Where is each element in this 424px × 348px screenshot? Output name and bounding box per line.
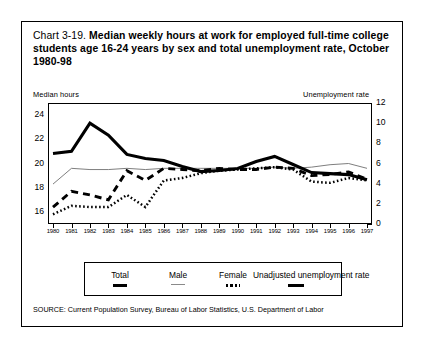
right-axis-title: Unemployment rate: [303, 90, 369, 99]
y-tick-label-left: 16: [22, 206, 44, 216]
x-tick-mark: [72, 224, 73, 228]
plot-area: [48, 103, 372, 224]
legend-item-total: Total: [93, 270, 147, 287]
legend-item-male: Male: [153, 270, 203, 285]
x-tick-label: 1997: [356, 228, 378, 234]
y-tick-label-left: 20: [22, 158, 44, 168]
y-tick-label-right: 6: [376, 158, 398, 168]
legend-item-unadjusted: Unadjusted unemployment rate: [253, 270, 339, 287]
left-axis-title: Median hours: [33, 90, 79, 99]
x-tick-mark: [108, 224, 109, 228]
legend: Total Male Female Unadjusted unemploymen…: [84, 262, 342, 296]
y-tick-label-left: 24: [22, 109, 44, 119]
legend-label-female: Female: [209, 270, 257, 280]
chart-number: Chart 3-19.: [33, 30, 89, 41]
y-tick-label-right: 0: [376, 218, 398, 228]
legend-swatch-female: [226, 284, 240, 287]
legend-label-male: Male: [153, 270, 203, 280]
y-tick-label-right: 8: [376, 137, 398, 147]
legend-swatch-male: [171, 284, 185, 285]
x-tick-mark: [127, 224, 128, 228]
x-tick-mark: [349, 224, 350, 228]
x-tick-mark: [90, 224, 91, 228]
x-tick-mark: [293, 224, 294, 228]
x-tick-mark: [145, 224, 146, 228]
legend-swatch-total: [113, 284, 127, 287]
x-tick-mark: [238, 224, 239, 228]
series-unadjusted-unemployment-rate: [53, 123, 367, 179]
legend-label-total: Total: [93, 270, 147, 280]
chart-page: Chart 3-19. Median weekly hours at work …: [0, 0, 424, 348]
legend-label-unadjusted: Unadjusted unemployment rate: [253, 270, 339, 280]
x-tick-mark: [330, 224, 331, 228]
legend-item-female: Female: [209, 270, 257, 287]
y-tick-label-left: 18: [22, 182, 44, 192]
y-tick-label-right: 4: [376, 178, 398, 188]
y-tick-mark-right: [368, 224, 372, 225]
x-tick-mark: [256, 224, 257, 228]
page-title: Chart 3-19. Median weekly hours at work …: [33, 29, 393, 69]
x-tick-mark: [201, 224, 202, 228]
legend-swatch-unadjusted: [288, 284, 304, 287]
x-tick-mark: [164, 224, 165, 228]
y-tick-label-right: 2: [376, 198, 398, 208]
y-tick-label-right: 10: [376, 117, 398, 127]
x-tick-mark: [219, 224, 220, 228]
y-tick-label-left: 22: [22, 133, 44, 143]
x-tick-mark: [53, 224, 54, 228]
x-tick-mark: [182, 224, 183, 228]
x-tick-mark: [275, 224, 276, 228]
x-tick-mark: [367, 224, 368, 228]
source-note: SOURCE: Current Population Survey, Burea…: [33, 305, 388, 314]
x-tick-mark: [312, 224, 313, 228]
y-tick-label-right: 12: [376, 97, 398, 107]
series-lines: [48, 103, 372, 224]
